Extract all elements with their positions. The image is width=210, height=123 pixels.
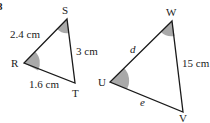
- side-st-length: 3 cm: [76, 46, 98, 57]
- side-rs-length: 2.4 cm: [10, 29, 40, 40]
- vertex-s-label: S: [62, 5, 68, 16]
- side-wv-length: 15 cm: [182, 58, 209, 69]
- vertex-r-label: R: [11, 58, 18, 69]
- side-rt-length: 1.6 cm: [29, 79, 59, 90]
- triangle-uvw: [110, 21, 183, 112]
- vertex-v-label: V: [179, 113, 187, 123]
- question-number: 8: [0, 1, 3, 12]
- side-uw-length: d: [130, 44, 136, 55]
- vertex-u-label: U: [98, 77, 106, 88]
- similar-triangles-diagram: [0, 0, 210, 123]
- vertex-t-label: T: [72, 88, 79, 99]
- vertex-w-label: W: [166, 7, 176, 18]
- side-uv-length: e: [140, 97, 145, 108]
